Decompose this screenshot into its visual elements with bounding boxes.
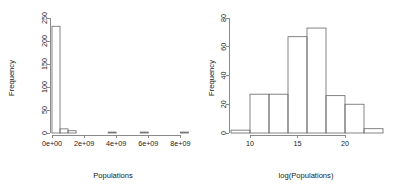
x-tick-label: 8e+09	[170, 139, 190, 148]
x-tick-label: 4e+09	[106, 139, 126, 148]
left-y-axis-title: Frequency	[7, 60, 16, 96]
left-plot-bars	[52, 26, 188, 133]
x-tick-label: 20	[341, 139, 349, 148]
x-tick-label: 2e+09	[74, 139, 94, 148]
right-x-axis-title: log(Populations)	[279, 171, 334, 180]
y-tick-label: 0	[219, 131, 228, 135]
y-tick-label: 80	[219, 14, 228, 22]
panel-populations-histogram: 050100150200250 0e+002e+094e+096e+098e+0…	[0, 0, 198, 193]
x-tick-label: 15	[294, 139, 302, 148]
x-tick-label: 6e+09	[138, 139, 158, 148]
log-populations-histogram-svg: 020406080 101520 log(Populations) Freque…	[198, 0, 396, 193]
y-tick-label: 60	[219, 43, 228, 51]
x-tick-label: 0e+00	[42, 139, 62, 148]
right-y-axis: 020406080	[219, 14, 229, 135]
y-tick-label: 20	[219, 100, 228, 108]
left-x-axis-title: Populations	[93, 171, 133, 180]
y-tick-label: 100	[40, 81, 49, 93]
y-tick-label: 50	[40, 106, 49, 114]
left-x-axis: 0e+002e+094e+096e+098e+09	[42, 135, 191, 148]
right-y-axis-title: Frequency	[207, 60, 216, 96]
panel-log-populations-histogram: 020406080 101520 log(Populations) Freque…	[198, 0, 396, 193]
y-tick-label: 40	[219, 72, 228, 80]
y-tick-label: 250	[40, 12, 49, 24]
x-tick-label: 10	[246, 139, 254, 148]
populations-histogram-svg: 050100150200250 0e+002e+094e+096e+098e+0…	[0, 0, 198, 193]
y-tick-label: 0	[40, 131, 49, 135]
right-plot-bars	[231, 28, 383, 133]
right-x-axis: 101520	[246, 135, 349, 148]
y-tick-label: 150	[40, 58, 49, 70]
left-y-axis: 050100150200250	[40, 12, 50, 135]
figure-two-histograms: 050100150200250 0e+002e+094e+096e+098e+0…	[0, 0, 396, 193]
y-tick-label: 200	[40, 35, 49, 47]
